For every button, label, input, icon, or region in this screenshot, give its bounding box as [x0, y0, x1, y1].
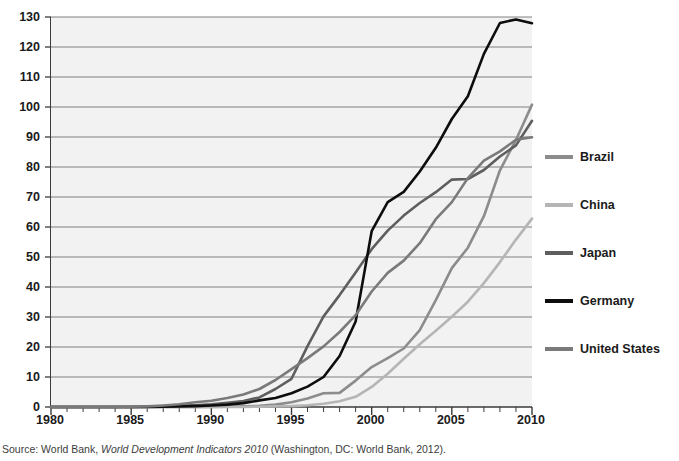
legend-swatch [545, 299, 573, 303]
legend-label: China [580, 199, 615, 212]
x-tick-label: 1985 [116, 414, 144, 427]
y-tick-label: 10 [0, 371, 40, 384]
x-tick-label: 1980 [36, 414, 64, 427]
series-line-japan [51, 121, 532, 407]
y-tick-label: 40 [0, 281, 40, 294]
y-tick-label: 80 [0, 161, 40, 174]
legend-label: Japan [580, 247, 616, 260]
legend-item-united-states[interactable]: United States [545, 342, 660, 356]
legend-item-germany[interactable]: Germany [545, 294, 634, 308]
y-tick-label: 50 [0, 251, 40, 264]
x-axis: 1980198519901995200020052010 [0, 414, 679, 436]
plot-canvas [51, 17, 532, 407]
source-prefix: Source: World Bank, [2, 443, 101, 455]
legend-swatch [545, 203, 573, 207]
x-tick-label: 1990 [196, 414, 224, 427]
plot-area [50, 17, 532, 407]
chart-figure: 1301201101009080706050403020100 19801985… [0, 0, 679, 461]
source-note: Source: World Bank, World Development In… [2, 443, 446, 456]
x-tick-label: 2010 [517, 414, 545, 427]
chart-legend: BrazilChinaJapanGermanyUnited States [545, 150, 679, 365]
source-suffix: (Washington, DC: World Bank, 2012). [268, 443, 446, 455]
legend-swatch [545, 347, 573, 351]
y-tick-label: 120 [0, 41, 40, 54]
legend-swatch [545, 155, 573, 159]
series-line-brazil [51, 105, 532, 407]
legend-item-china[interactable]: China [545, 198, 615, 212]
legend-item-brazil[interactable]: Brazil [545, 150, 614, 164]
y-tick-label: 70 [0, 191, 40, 204]
y-tick-label: 110 [0, 71, 40, 84]
legend-label: Brazil [580, 151, 614, 164]
series-line-germany [51, 19, 532, 407]
legend-item-japan[interactable]: Japan [545, 246, 616, 260]
legend-label: Germany [580, 295, 634, 308]
x-tick-label: 2000 [357, 414, 385, 427]
y-tick-label: 130 [0, 11, 40, 24]
x-tick-label: 2005 [437, 414, 465, 427]
source-title: World Development Indicators 2010 [101, 443, 268, 455]
y-tick-label: 0 [0, 401, 40, 414]
legend-swatch [545, 251, 573, 255]
y-tick-label: 30 [0, 311, 40, 324]
y-tick-label: 100 [0, 101, 40, 114]
series-line-united-states [51, 137, 532, 407]
x-tick-label: 1995 [277, 414, 305, 427]
y-tick-label: 90 [0, 131, 40, 144]
legend-label: United States [580, 343, 660, 356]
y-axis: 1301201101009080706050403020100 [0, 0, 40, 461]
y-tick-label: 60 [0, 221, 40, 234]
y-tick-label: 20 [0, 341, 40, 354]
